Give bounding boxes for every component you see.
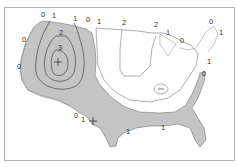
shaded-region-west xyxy=(20,21,206,147)
contour-label: 1 xyxy=(97,17,101,26)
contour-label: 0 xyxy=(41,10,45,19)
contour-label: 0 xyxy=(209,17,213,26)
contour-label: 1 xyxy=(219,28,223,37)
contour-label: 3 xyxy=(58,43,62,52)
contour-label: 1 xyxy=(52,11,56,20)
contour-label: 0 xyxy=(202,69,206,78)
contour-label: 2 xyxy=(122,18,126,27)
contour-map: 0 1 1 0 1 2 2 1 0 0 1 0 2 3 0 1 0 0 1 1 … xyxy=(0,0,237,167)
contour-label: 1 xyxy=(161,123,165,132)
contour-label: 1 xyxy=(166,28,170,37)
contour-label: 0 xyxy=(22,35,26,44)
contour-label: 0 xyxy=(74,111,78,120)
contour-label: 1 xyxy=(81,115,85,124)
contour-label: 0 xyxy=(86,15,90,24)
contour-label: 1 xyxy=(126,127,130,136)
contour-label: 1 xyxy=(73,14,77,23)
contour-label: 1 xyxy=(207,57,211,66)
contour-label: 2 xyxy=(59,28,63,37)
contour-label: 0 xyxy=(180,36,184,45)
contour-2 xyxy=(120,29,156,76)
contour-label: 2 xyxy=(154,20,158,29)
contour-label: 0 xyxy=(17,62,21,71)
